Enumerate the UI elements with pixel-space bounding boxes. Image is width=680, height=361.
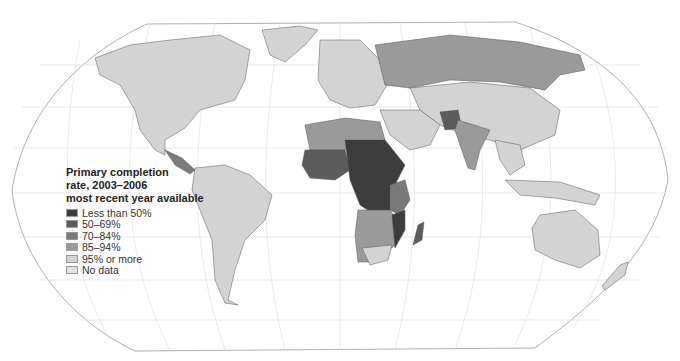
legend-item-no-data: No data bbox=[66, 265, 236, 277]
legend-items: Less than 50% 50–69% 70–84% 85–94% 95% o… bbox=[66, 207, 236, 276]
legend-item-less-than-50: Less than 50% bbox=[66, 207, 236, 219]
legend-title-line2: rate, 2003–2006 bbox=[66, 179, 236, 192]
legend-swatch bbox=[66, 209, 78, 217]
legend-swatch bbox=[66, 255, 78, 263]
legend-swatch bbox=[66, 266, 78, 274]
legend-title: Primary completion rate, 2003–2006 most … bbox=[66, 166, 236, 205]
legend-item-50-69: 50–69% bbox=[66, 219, 236, 231]
legend-label: 85–94% bbox=[82, 241, 121, 253]
legend-item-70-84: 70–84% bbox=[66, 230, 236, 242]
legend-title-line1: Primary completion bbox=[66, 166, 236, 179]
legend-swatch bbox=[66, 220, 78, 228]
legend-swatch bbox=[66, 232, 78, 240]
legend-title-line3: most recent year available bbox=[66, 192, 236, 205]
legend-label: Less than 50% bbox=[82, 207, 151, 219]
legend-label: No data bbox=[82, 264, 119, 276]
map-legend: Primary completion rate, 2003–2006 most … bbox=[66, 166, 236, 276]
legend-item-85-94: 85–94% bbox=[66, 242, 236, 254]
legend-label: 50–69% bbox=[82, 218, 121, 230]
legend-label: 70–84% bbox=[82, 230, 121, 242]
legend-item-95-or-more: 95% or more bbox=[66, 253, 236, 265]
legend-label: 95% or more bbox=[82, 253, 142, 265]
legend-swatch bbox=[66, 243, 78, 251]
